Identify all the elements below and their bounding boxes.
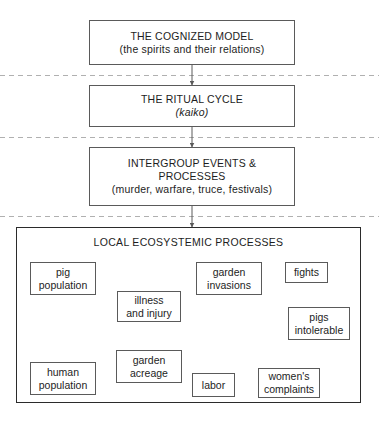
- garden-invasions-line1: garden: [213, 266, 246, 279]
- tier-box-ritual-cycle: THE RITUAL CYCLE (kaiko): [89, 85, 295, 127]
- ritual-cycle-line2: (kaiko): [176, 106, 209, 119]
- human-population-line1: human: [47, 366, 79, 379]
- node-labor: labor: [192, 373, 235, 397]
- pig-population-line2: population: [39, 279, 87, 292]
- node-garden-acreage: garden acreage: [116, 350, 182, 383]
- tier-box-intergroup-events: INTERGROUP EVENTS & PROCESSES (murder, w…: [89, 147, 295, 206]
- local-ecosystemic-processes-title: LOCAL ECOSYSTEMIC PROCESSES: [16, 236, 361, 248]
- illness-and-injury-line2: and injury: [126, 307, 172, 320]
- tier-box-cognized-model: THE COGNIZED MODEL (the spirits and thei…: [89, 20, 295, 65]
- garden-invasions-line2: invasions: [207, 279, 251, 292]
- node-pig-population: pig population: [30, 262, 96, 295]
- illness-and-injury-line1: illness: [134, 294, 163, 307]
- node-garden-invasions: garden invasions: [196, 262, 262, 295]
- human-population-line2: population: [39, 379, 87, 392]
- fights-line1: fights: [294, 266, 319, 279]
- labor-line1: labor: [202, 379, 225, 392]
- node-illness-and-injury: illness and injury: [117, 291, 181, 322]
- node-womens-complaints: women's complaints: [258, 368, 320, 398]
- pigs-intolerable-line2: intolerable: [295, 324, 343, 337]
- womens-complaints-line1: women's: [268, 370, 309, 383]
- intergroup-events-line1: INTERGROUP EVENTS &: [128, 157, 256, 170]
- intergroup-events-line3: (murder, warfare, truce, festivals): [112, 183, 272, 196]
- garden-acreage-line1: garden: [133, 354, 166, 367]
- garden-acreage-line2: acreage: [130, 367, 168, 380]
- node-fights: fights: [285, 262, 328, 283]
- womens-complaints-line2: complaints: [264, 383, 314, 396]
- node-human-population: human population: [30, 362, 96, 395]
- intergroup-events-line2: PROCESSES: [158, 170, 225, 183]
- cognized-model-line1: THE COGNIZED MODEL: [130, 30, 253, 43]
- pigs-intolerable-line1: pigs: [309, 311, 328, 324]
- ritual-cycle-line1: THE RITUAL CYCLE: [141, 93, 243, 106]
- diagram-canvas: THE COGNIZED MODEL (the spirits and thei…: [0, 0, 379, 434]
- node-pigs-intolerable: pigs intolerable: [288, 307, 350, 340]
- cognized-model-line2: (the spirits and their relations): [120, 43, 265, 56]
- pig-population-line1: pig: [56, 266, 70, 279]
